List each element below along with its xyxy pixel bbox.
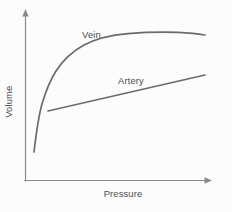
y-axis-arrowhead	[22, 9, 28, 17]
vein-curve	[34, 32, 205, 152]
pressure-volume-chart: Vein Artery Pressure Volume	[0, 0, 232, 212]
x-axis-title: Pressure	[0, 189, 232, 198]
series-label-vein: Vein	[82, 30, 101, 39]
chart-canvas	[0, 0, 232, 212]
series-label-artery: Artery	[118, 76, 144, 85]
data-series-group	[34, 32, 205, 152]
y-axis-title-text: Volume	[4, 86, 13, 118]
x-axis-arrowhead	[205, 177, 213, 183]
y-axis-title: Volume	[0, 0, 18, 212]
